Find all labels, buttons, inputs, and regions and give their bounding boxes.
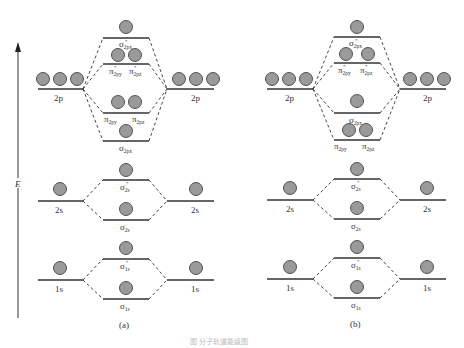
antibonding-markers: * * * * * * * * * * xyxy=(114,38,368,265)
ao-label-1s: 1s xyxy=(423,283,432,293)
energy-axis: E xyxy=(14,42,21,318)
panel-a: 2p 2s 1s 2p 2s 1s σ2px xyxy=(37,21,220,331)
electron xyxy=(112,49,125,62)
mo-label-pi-2py: π2py xyxy=(104,114,117,125)
ao-label-2s: 2s xyxy=(423,204,432,214)
electron xyxy=(283,73,296,86)
atomic-orbitals-right: 2p 2s 1s xyxy=(167,73,220,295)
mo-label-sigma-1s: σ1s xyxy=(351,300,361,311)
electron xyxy=(284,182,297,195)
ao-label-2p: 2p xyxy=(285,93,295,103)
svg-text:*: * xyxy=(357,259,360,264)
panel-label-a: (a) xyxy=(119,320,129,330)
figure-caption: 图 分子轨道能级图 xyxy=(190,337,248,346)
electron xyxy=(340,48,353,61)
electron xyxy=(120,164,133,177)
electron xyxy=(190,262,203,275)
svg-text:*: * xyxy=(357,180,360,185)
electron xyxy=(284,261,297,274)
electron xyxy=(360,124,373,137)
electron xyxy=(54,183,67,196)
svg-text:*: * xyxy=(134,65,137,70)
electron xyxy=(351,21,364,34)
svg-text:*: * xyxy=(365,64,368,69)
ao-label-1s: 1s xyxy=(55,284,64,294)
electron xyxy=(266,73,279,86)
electron xyxy=(120,203,133,216)
svg-text:*: * xyxy=(114,65,117,70)
ao-label-2s: 2s xyxy=(286,204,295,214)
electron xyxy=(37,73,50,86)
electron xyxy=(362,48,375,61)
mo-label-sigma-2s: σ2s xyxy=(120,222,130,233)
ao-label-1s: 1s xyxy=(191,284,200,294)
svg-text:*: * xyxy=(126,181,129,186)
ao-label-2p: 2p xyxy=(191,93,201,103)
electron xyxy=(54,262,67,275)
electron xyxy=(71,73,84,86)
ao-label-2s: 2s xyxy=(191,205,200,215)
electron xyxy=(343,124,356,137)
arrow-up-icon xyxy=(15,42,21,52)
electron xyxy=(112,96,125,109)
mo-label-sigma-2p: σ2px xyxy=(119,143,132,154)
electron xyxy=(351,95,364,108)
svg-text:*: * xyxy=(343,64,346,69)
electron xyxy=(129,96,142,109)
electron xyxy=(421,182,434,195)
mo-label-sigma-1s: σ1s xyxy=(120,301,130,312)
electron xyxy=(173,73,186,86)
ao-label-2p: 2p xyxy=(54,93,64,103)
mo-label-sigma-2s: σ2s xyxy=(351,221,361,232)
panel-b: 2p 2s 1s 2p 2s 1s σ2px xyxy=(266,21,451,330)
ao-label-2s: 2s xyxy=(55,205,64,215)
electron xyxy=(351,241,364,254)
mo-label-pi-2pz: π2pz xyxy=(132,114,145,125)
electron xyxy=(120,282,133,295)
electron xyxy=(421,73,434,86)
electron xyxy=(300,73,313,86)
electron xyxy=(190,183,203,196)
electron xyxy=(351,281,364,294)
electron xyxy=(351,163,364,176)
electron xyxy=(190,73,203,86)
electron xyxy=(404,73,417,86)
mo-energy-diagram: E 2p 2s 1s 2p 2s xyxy=(0,0,464,348)
atomic-orbitals-right: 2p 2s 1s xyxy=(400,73,451,294)
electron xyxy=(351,202,364,215)
molecular-orbitals: σ2px π2py π2pz π2py π2pz σ2px σ2s xyxy=(103,21,149,313)
atomic-orbitals-left: 2p 2s 1s xyxy=(37,73,84,295)
electron xyxy=(120,125,133,138)
atomic-orbitals-left: 2p 2s 1s xyxy=(266,73,314,294)
panel-label-b: (b) xyxy=(350,319,361,329)
electron xyxy=(421,261,434,274)
electron xyxy=(438,73,451,86)
electron xyxy=(129,49,142,62)
mo-label-pi-2py: π2py xyxy=(334,141,347,152)
electron xyxy=(54,73,67,86)
electron xyxy=(120,242,133,255)
ao-label-2p: 2p xyxy=(423,93,433,103)
mo-label-pi-2pz: π2pz xyxy=(362,141,375,152)
ao-label-1s: 1s xyxy=(286,283,295,293)
energy-axis-label: E xyxy=(14,179,21,189)
svg-text:*: * xyxy=(126,260,129,265)
molecular-orbitals: σ2px π2py π2pz σ2px π2py π2pz σ2s xyxy=(334,21,380,312)
electron xyxy=(207,73,220,86)
electron xyxy=(120,21,133,34)
